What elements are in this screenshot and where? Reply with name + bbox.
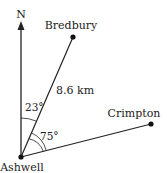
north-arrow-icon xyxy=(18,21,25,30)
label-angle-75: 75° xyxy=(40,130,59,142)
bearing-diagram: N Bredbury 8.6 km 23° 75° Crimpton Ashwe… xyxy=(0,0,167,173)
point-crimpton xyxy=(148,121,153,126)
label-bredbury: Bredbury xyxy=(45,19,98,32)
point-ashwell xyxy=(18,154,23,159)
north-label: N xyxy=(16,8,26,21)
label-ashwell: Ashwell xyxy=(0,161,44,173)
label-crimpton: Crimpton xyxy=(108,107,161,120)
angle-arc-23 xyxy=(21,118,36,121)
point-bredbury xyxy=(70,34,75,39)
label-distance: 8.6 km xyxy=(56,84,95,97)
label-angle-23: 23° xyxy=(25,101,44,113)
